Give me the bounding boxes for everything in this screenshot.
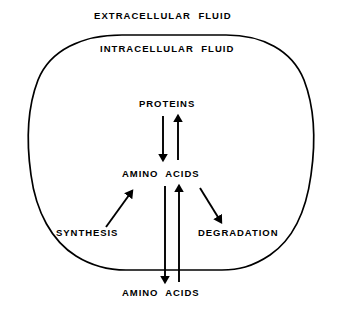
degradation-label: DEGRADATION [198, 228, 278, 238]
cell-protein-turnover-diagram: EXTRACELLULAR FLUID INTRACELLULAR FLUID … [0, 0, 340, 310]
proteins-pool-label: PROTEINS [139, 99, 195, 109]
amino-acids-intracellular-label: AMINO ACIDS [122, 169, 200, 179]
intracellular-fluid-label: INTRACELLULAR FLUID [100, 44, 234, 54]
arrow-degradation-flow [200, 188, 221, 222]
synthesis-label: SYNTHESIS [56, 228, 118, 238]
amino-acids-extracellular-label: AMINO ACIDS [122, 288, 200, 298]
extracellular-fluid-label: EXTRACELLULAR FLUID [94, 11, 232, 21]
arrow-synthesis-flow [106, 191, 132, 227]
